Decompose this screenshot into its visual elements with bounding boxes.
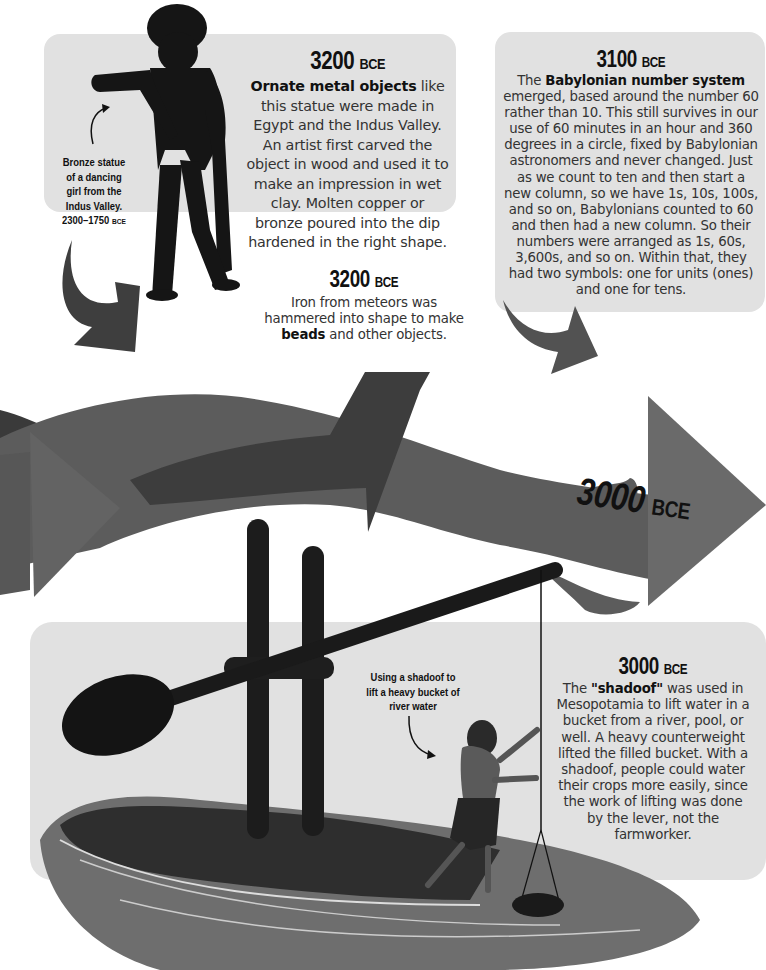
entry-date: 3100 BCE [597,46,666,73]
entry-date: 3200 BCE [330,266,399,293]
entry-date: 3200 BCE [310,46,385,75]
entry-metal-objects: 3200 BCE Ornate metal objects like this … [245,46,450,253]
entry-body: The Babylonian number system emerged, ba… [502,73,760,298]
entry-body: The "shadoof" was used in Mesopotamia to… [555,681,751,843]
statue-caption: Bronze statue of a dancing girl from the… [51,155,136,230]
shadoof-caption: Using a shadoof to lift a heavy bucket o… [364,670,462,714]
entry-shadoof: 3000 BCE The "shadoof" was used in Mesop… [555,653,751,843]
entry-babylonian-numbers: 3100 BCE The Babylonian number system em… [502,46,760,298]
entry-body: Iron from meteors was hammered into shap… [264,295,464,344]
entry-body: Ornate metal objects like this statue we… [245,77,450,253]
entry-iron-beads: 3200 BCE Iron from meteors was hammered … [264,266,464,344]
caption-pointer-arrow-icon [91,108,106,144]
entry-date: 3000 BCE [619,653,688,680]
